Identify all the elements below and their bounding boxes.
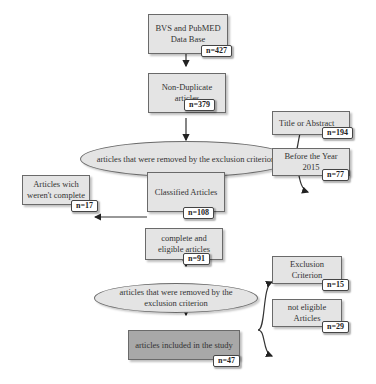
count-badge-classified: n=108 [183, 207, 214, 219]
node-exclusion-2-label: articles that were removed by the exclus… [109, 287, 243, 309]
count-badge-exclusion-criterion: n=15 [322, 279, 349, 291]
count-badge-non-duplicate: n=379 [184, 99, 215, 111]
node-incomplete-label: Articles wich weren't complete [25, 179, 87, 201]
count-badge-database: n=427 [201, 45, 232, 57]
edge-exclusion2-noteligible [258, 330, 272, 356]
count-badge-incomplete: n=17 [71, 200, 98, 212]
node-complete-eligible-label: complete and eligible articles [148, 233, 220, 255]
node-classified-label: Classified Articles [155, 187, 218, 198]
count-badge-title-abstract: n=194 [322, 127, 353, 139]
count-badge-not-eligible: n=29 [322, 321, 349, 333]
count-badge-complete-eligible: n=91 [183, 253, 210, 265]
count-badge-before-year: n=77 [322, 169, 349, 181]
edge-exclusion2-criterion [258, 282, 272, 330]
node-included-label: articles included in the study [135, 340, 233, 351]
node-database-label: BVS and PubMED Data Base [151, 23, 225, 45]
node-exclusion-2: articles that were removed by the exclus… [94, 283, 258, 313]
node-exclusion-1-label: articles that were removed by the exclus… [97, 154, 276, 165]
node-classified: Classified Articles [147, 172, 225, 212]
node-exclusion-criterion-label: Exclusion Criterion [275, 259, 339, 281]
count-badge-included: n=47 [213, 355, 240, 367]
